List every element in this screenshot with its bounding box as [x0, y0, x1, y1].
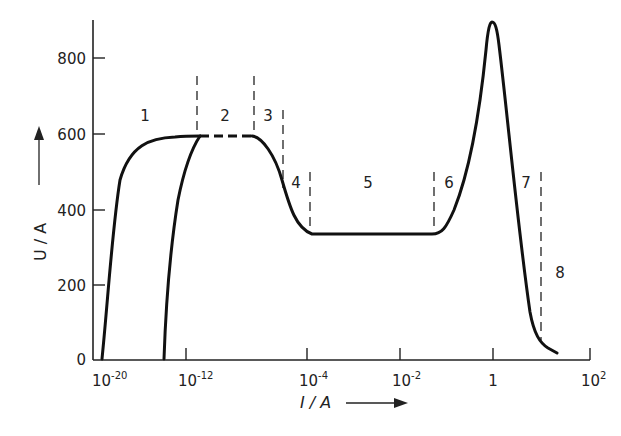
y-tick-label: 200 — [57, 277, 86, 295]
x-ticks — [186, 348, 590, 360]
region-labels: 1 2 3 4 5 6 7 8 — [140, 107, 565, 282]
region-label-8: 8 — [555, 264, 565, 282]
y-tick-label: 0 — [76, 351, 86, 369]
x-tick-label: 10-12 — [178, 370, 213, 390]
y-tick-label: 800 — [57, 50, 86, 68]
region-label-6: 6 — [444, 174, 454, 192]
x-tick-label: 1 — [488, 372, 498, 390]
y-tick-labels: 800 600 400 200 0 — [57, 50, 86, 369]
curve-right-rise — [164, 136, 200, 359]
x-axis-title: I / A — [300, 393, 331, 412]
region-label-3: 3 — [263, 107, 273, 125]
region-label-4: 4 — [291, 174, 301, 192]
y-tick-label: 600 — [57, 126, 86, 144]
x-tick-label: 10-20 — [92, 370, 127, 390]
region-label-1: 1 — [140, 107, 150, 125]
x-tick-labels: 10-20 10-12 10-4 10-2 1 102 — [92, 370, 606, 390]
y-axis-title-group: U / A — [31, 126, 50, 261]
region-label-7: 7 — [521, 174, 531, 192]
y-ticks — [93, 58, 105, 285]
x-tick-label: 10-2 — [392, 370, 421, 390]
x-tick-label: 102 — [581, 370, 606, 390]
y-axis-title: U / A — [31, 223, 50, 261]
x-axis-title-group: I / A — [300, 393, 408, 412]
chart: 800 600 400 200 0 U / A 10-20 10-12 10-4… — [0, 0, 621, 436]
y-axis-arrow-icon — [34, 126, 44, 140]
data-curves — [102, 22, 557, 359]
region-label-5: 5 — [363, 174, 373, 192]
x-tick-label: 10-4 — [299, 370, 328, 390]
region-separators — [197, 76, 541, 340]
y-tick-label: 400 — [57, 202, 86, 220]
region-label-2: 2 — [220, 107, 230, 125]
x-axis-arrow-icon — [394, 398, 408, 408]
